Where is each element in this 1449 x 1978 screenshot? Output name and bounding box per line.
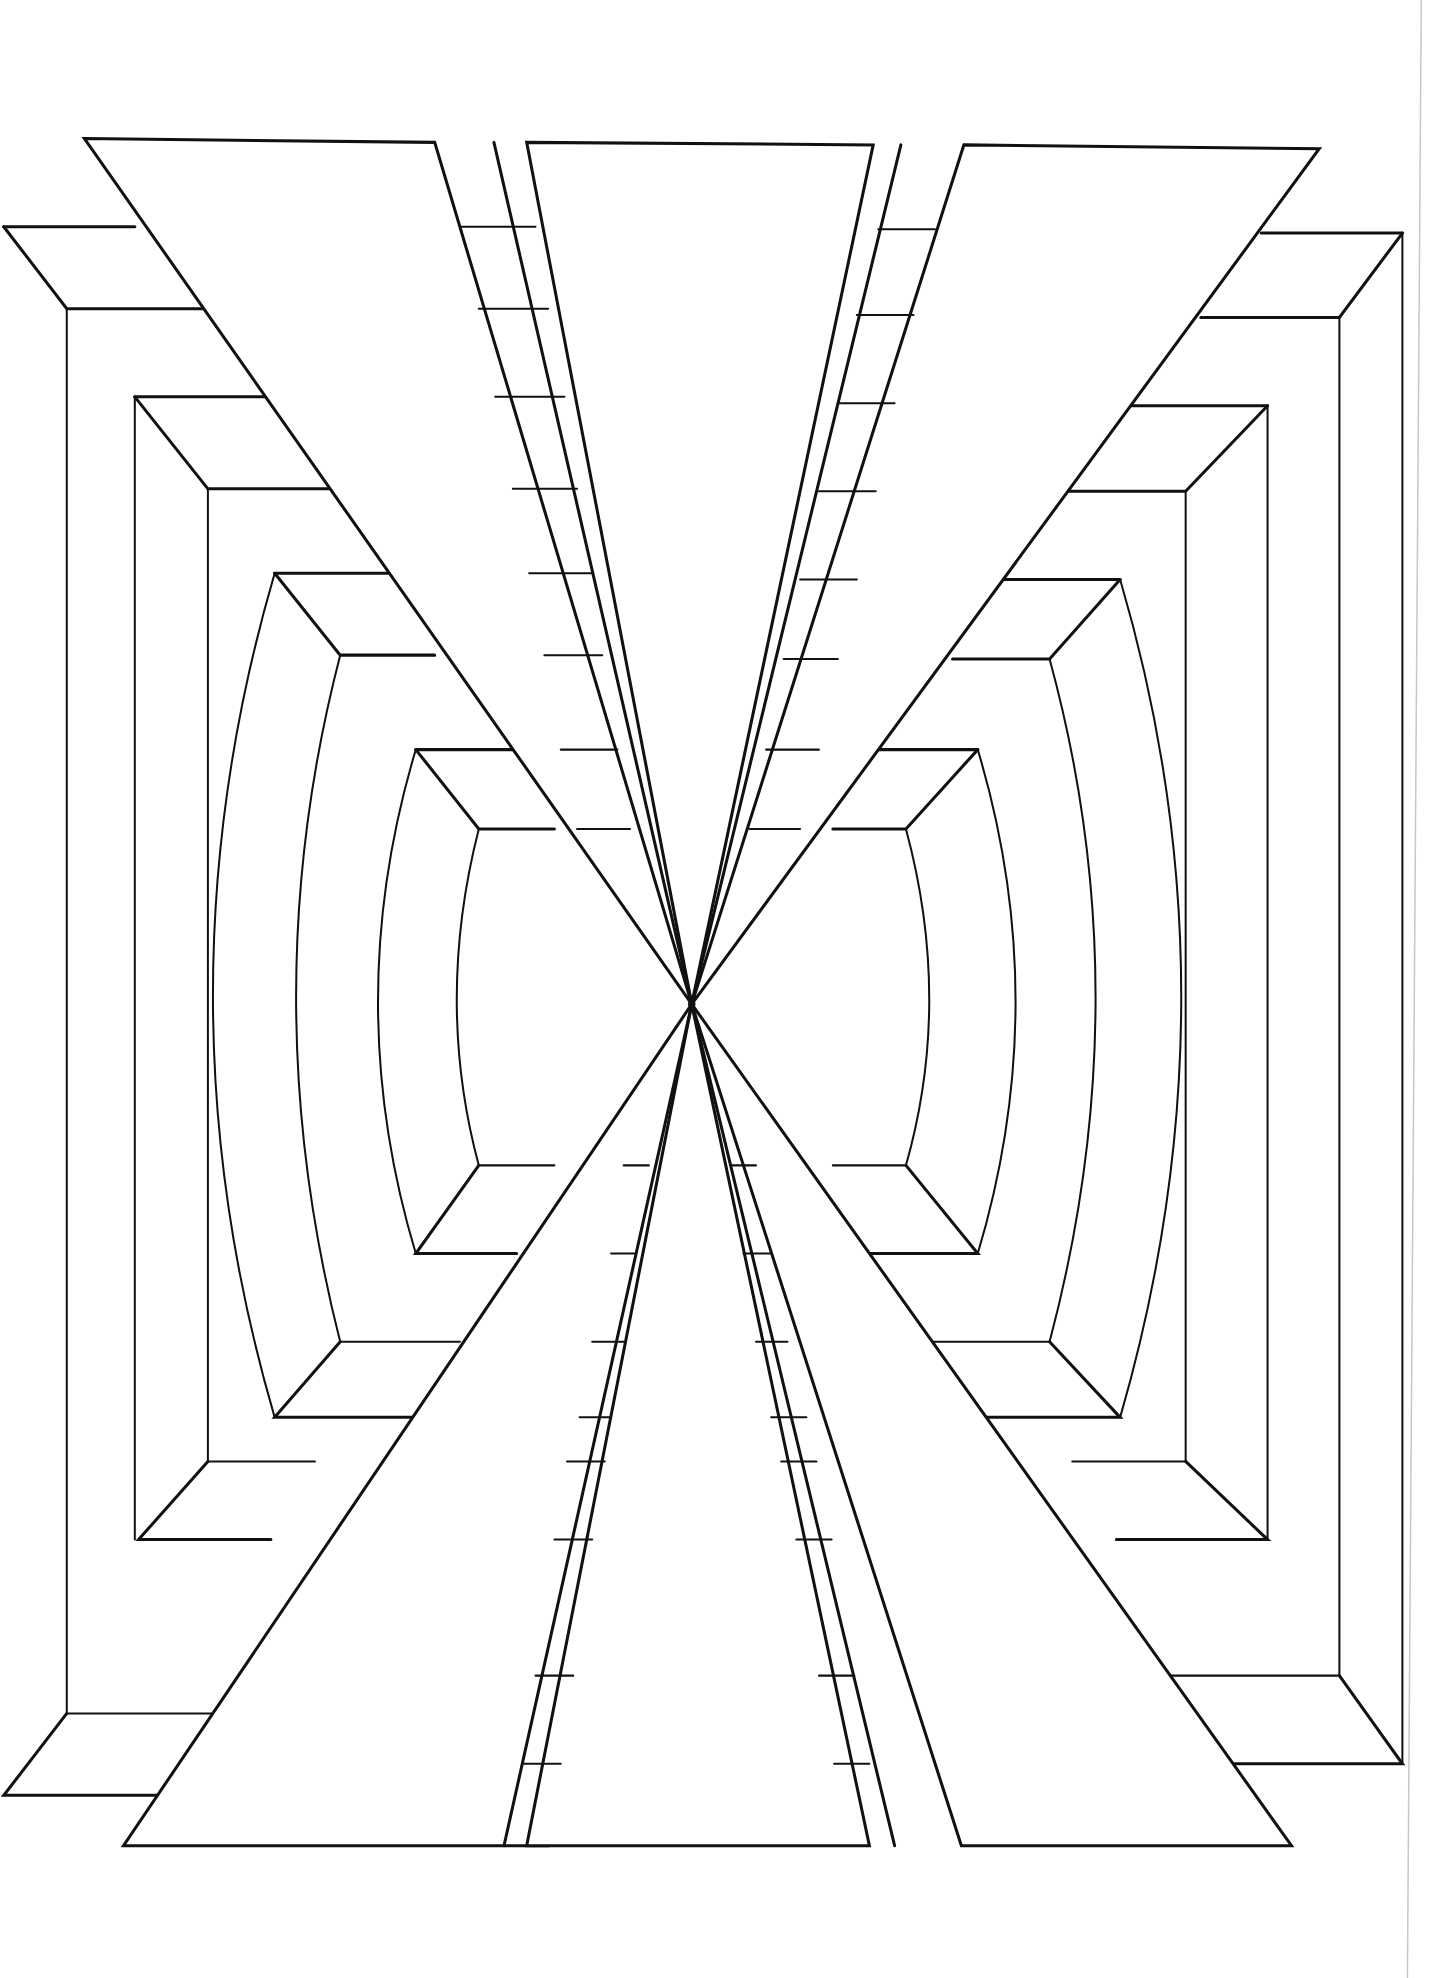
page-edge [1407,0,1421,1978]
line-art-drawing [0,0,1449,1978]
wedges [84,139,1319,1846]
vanishing-point [688,1000,696,1008]
